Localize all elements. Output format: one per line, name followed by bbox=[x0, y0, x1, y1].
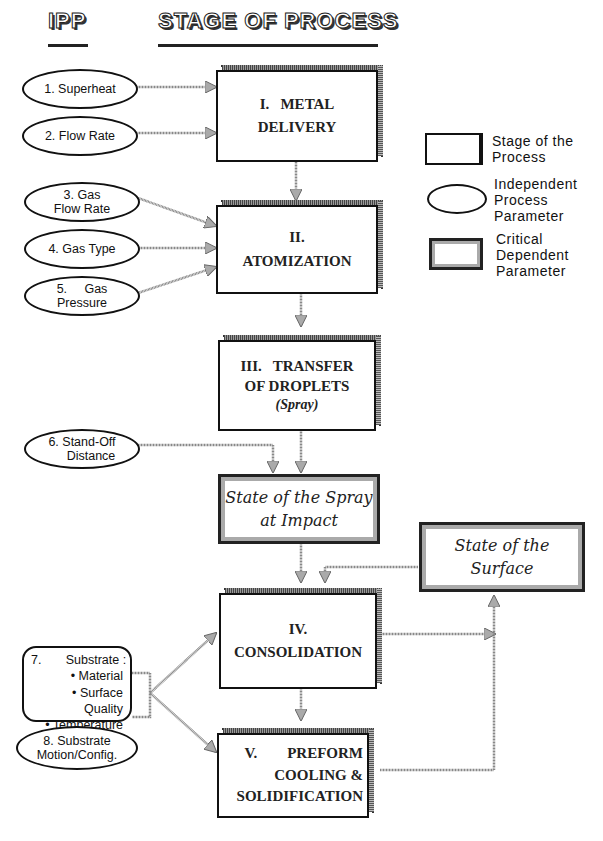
param-label: 3. Gas bbox=[26, 188, 138, 202]
stage-preform-cooling: V. PREFORM COOLING & SOLIDIFICATION bbox=[217, 733, 369, 818]
stage-label: DELIVERY bbox=[218, 116, 376, 139]
stage-transfer-of-droplets: III. TRANSFER OF DROPLETS (Spray) bbox=[218, 340, 376, 431]
legend-label: Parameter bbox=[496, 263, 569, 279]
arrow-preform-to-surface bbox=[380, 596, 494, 770]
header-stage-underline bbox=[158, 44, 378, 47]
legend-stage-text: Stage of the Process bbox=[492, 133, 574, 165]
param-substrate-motion: 8. Substrate Motion/Config. bbox=[16, 726, 138, 770]
stage-sublabel: (Spray) bbox=[220, 396, 374, 415]
param-label: Motion/Config. bbox=[18, 748, 136, 762]
stage-label: III. TRANSFER bbox=[220, 356, 374, 376]
legend-label: Dependent bbox=[496, 247, 569, 263]
critical-state-of-surface: State of the Surface bbox=[419, 522, 585, 592]
param-label: 8. Substrate bbox=[18, 734, 136, 748]
param-label: • Material bbox=[31, 668, 123, 684]
param-label: 5. Gas bbox=[26, 282, 138, 296]
param-stand-off-distance: 6. Stand-Off Distance bbox=[24, 429, 140, 469]
legend-ellipse-icon bbox=[427, 184, 487, 214]
stage-label: COOLING & bbox=[219, 765, 363, 787]
legend-label: Critical bbox=[496, 231, 569, 247]
param-label: • Surface Quality bbox=[31, 685, 123, 718]
critical-label: Surface bbox=[422, 557, 582, 580]
param-superheat: 1. Superheat bbox=[22, 69, 138, 109]
header-ipp: IPP bbox=[48, 8, 86, 34]
legend-stage-box-icon bbox=[425, 133, 483, 165]
stage-label: II. bbox=[218, 226, 376, 249]
bracket-substrate bbox=[132, 673, 150, 717]
stage-label: OF DROPLETS bbox=[220, 376, 374, 396]
param-label: Flow Rate bbox=[26, 202, 138, 216]
param-gas-type: 4. Gas Type bbox=[24, 229, 140, 269]
param-gas-pressure: 5. Gas Pressure bbox=[24, 276, 140, 316]
stage-label: IV. bbox=[221, 618, 375, 641]
header-stage-of-process: STAGE OF PROCESS bbox=[158, 8, 399, 34]
param-label: Distance bbox=[26, 449, 138, 463]
arrow-gas-pressure bbox=[138, 267, 216, 293]
arrow-surface-to-consol bbox=[325, 567, 418, 582]
param-label: 7. Substrate : bbox=[31, 652, 123, 668]
param-label: 4. Gas Type bbox=[26, 242, 138, 256]
legend-label: Process bbox=[492, 149, 574, 165]
arrow-standoff bbox=[138, 445, 273, 472]
param-label: 1. Superheat bbox=[24, 82, 136, 96]
stage-label: I. METAL bbox=[218, 93, 376, 116]
critical-label: State of the bbox=[422, 534, 582, 557]
param-label: 6. Stand-Off bbox=[26, 435, 138, 449]
param-substrate: 7. Substrate : • Material • Surface Qual… bbox=[22, 646, 132, 722]
stage-atomization: II. ATOMIZATION bbox=[216, 205, 378, 294]
stage-consolidation: IV. CONSOLIDATION bbox=[219, 593, 377, 689]
arrow-substrate-to-preform bbox=[150, 693, 216, 752]
critical-label: State of the Spray bbox=[221, 486, 377, 509]
stage-metal-delivery: I. METAL DELIVERY bbox=[216, 70, 378, 162]
param-label: 2. Flow Rate bbox=[24, 129, 136, 143]
stage-label: SOLIDIFICATION bbox=[219, 786, 363, 808]
stage-label: V. PREFORM bbox=[219, 743, 363, 765]
header-ipp-underline bbox=[48, 44, 88, 47]
arrow-gas-flow bbox=[138, 198, 216, 226]
arrow-substrate-to-consol bbox=[150, 633, 216, 693]
legend-label: Parameter bbox=[494, 208, 577, 224]
param-label: Pressure bbox=[26, 296, 138, 310]
legend-critical-text: Critical Dependent Parameter bbox=[496, 231, 569, 279]
param-flow-rate: 2. Flow Rate bbox=[22, 116, 138, 156]
legend-label: Process bbox=[494, 192, 577, 208]
legend-critical-box-icon bbox=[429, 238, 483, 270]
param-gas-flow-rate: 3. Gas Flow Rate bbox=[24, 182, 140, 222]
stage-label: ATOMIZATION bbox=[218, 250, 376, 273]
critical-spray-at-impact: State of the Spray at Impact bbox=[218, 474, 380, 544]
legend-ipp-text: Independent Process Parameter bbox=[494, 176, 577, 224]
stage-label: CONSOLIDATION bbox=[221, 641, 375, 664]
critical-label: at Impact bbox=[221, 509, 377, 532]
legend-label: Stage of the bbox=[492, 133, 574, 149]
legend-label: Independent bbox=[494, 176, 577, 192]
